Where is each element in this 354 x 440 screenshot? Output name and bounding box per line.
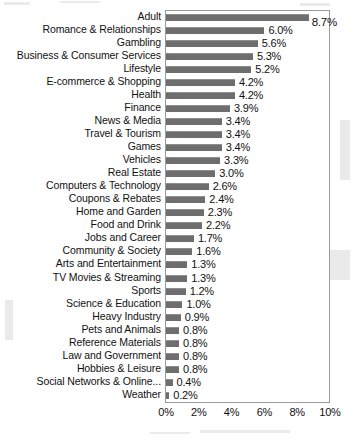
bar-value-label: 0.8%	[183, 351, 207, 362]
bar-value-label: 4.2%	[239, 90, 263, 101]
bar-value-label: 3.4%	[226, 129, 250, 140]
bar-value-label: 1.0%	[186, 299, 210, 310]
x-tick-label: 6%	[257, 406, 273, 419]
bar-value-label: 5.3%	[257, 51, 281, 62]
x-tick-label: 2%	[191, 406, 207, 419]
bar-value-label: 0.4%	[177, 377, 201, 388]
bar-value-label: 5.6%	[262, 38, 286, 49]
data-value-labels: 8.7%6.0%5.6%5.3%5.2%4.2%4.2%3.9%3.4%3.4%…	[0, 10, 354, 403]
bar-value-label: 4.2%	[239, 77, 263, 88]
bar-value-label: 3.9%	[234, 103, 258, 114]
bar-value-label: 2.6%	[213, 181, 237, 192]
bar-value-label: 3.3%	[224, 155, 248, 166]
bar-value-label: 1.6%	[196, 246, 220, 257]
bar-value-label: 6.0%	[268, 25, 292, 36]
bar-chart: AdultRomance & RelationshipsGamblingBusi…	[0, 0, 354, 440]
x-axis-tick-labels: 0%2%4%6%8%10%	[165, 406, 330, 426]
bar-value-label: 1.3%	[191, 273, 215, 284]
bar-value-label: 1.3%	[191, 259, 215, 270]
scan-artifact	[340, 120, 350, 180]
x-tick-label: 10%	[319, 406, 340, 419]
scan-artifact	[300, 3, 330, 6]
bar-value-label: 0.2%	[173, 390, 197, 401]
bar-value-label: 0.8%	[183, 325, 207, 336]
bar-value-label: 0.9%	[185, 312, 209, 323]
bar-value-label: 0.8%	[183, 364, 207, 375]
x-tick-label: 4%	[224, 406, 240, 419]
scan-artifact	[4, 2, 30, 5]
x-tick-label: 8%	[289, 406, 305, 419]
bar-value-label: 2.2%	[206, 220, 230, 231]
scan-artifact	[60, 1, 100, 3]
bar-value-label: 3.4%	[226, 142, 250, 153]
scan-artifact	[200, 430, 290, 433]
scan-artifact	[5, 300, 13, 340]
bar-value-label: 1.2%	[190, 286, 214, 297]
bar-value-label: 3.0%	[219, 168, 243, 179]
bar-value-label: 5.2%	[255, 64, 279, 75]
scan-artifact	[330, 250, 350, 280]
x-tick-label: 0%	[158, 406, 174, 419]
bar-value-label: 3.4%	[226, 116, 250, 127]
bar-value-label: 2.4%	[209, 194, 233, 205]
bar-value-label: 8.7%	[312, 17, 337, 28]
scan-artifact	[150, 432, 190, 434]
bar-value-label: 0.8%	[183, 338, 207, 349]
bar-value-label: 2.3%	[208, 207, 232, 218]
bar-value-label: 1.7%	[198, 233, 222, 244]
